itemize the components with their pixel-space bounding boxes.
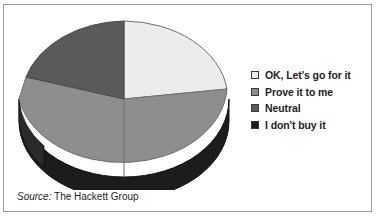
legend-item-prove-it-to-me[interactable]: Prove it to me bbox=[251, 84, 371, 101]
legend-label-neutral: Neutral bbox=[265, 103, 300, 114]
source-attribution: Source: The Hackett Group bbox=[17, 192, 139, 202]
legend-swatch-icon-neutral bbox=[251, 104, 259, 112]
legend-item-ok-lets-go-for-it[interactable]: OK, Let's go for it bbox=[251, 67, 371, 84]
legend-swatch-icon-i-dont-buy-it bbox=[251, 121, 259, 129]
figure-frame: OK, Let's go for it Prove it to me Neutr… bbox=[3, 4, 372, 212]
pie-chart-svg bbox=[4, 5, 249, 190]
source-keyword: Source: bbox=[17, 191, 51, 202]
legend-swatch-icon-ok-lets-go-for-it bbox=[251, 71, 259, 79]
source-organization: The Hackett Group bbox=[54, 191, 138, 202]
pie-slice-ok-lets-go-for-it bbox=[124, 21, 227, 99]
legend-label-prove-it-to-me: Prove it to me bbox=[265, 87, 333, 98]
legend-label-i-dont-buy-it: I don't buy it bbox=[265, 120, 326, 131]
legend-swatch-icon-prove-it-to-me bbox=[251, 88, 259, 96]
legend-item-neutral[interactable]: Neutral bbox=[251, 100, 371, 117]
legend-item-i-dont-buy-it[interactable]: I don't buy it bbox=[251, 117, 371, 134]
legend-label-ok-lets-go-for-it: OK, Let's go for it bbox=[265, 70, 351, 81]
pie-chart-plot-area bbox=[4, 5, 249, 190]
chart-legend: OK, Let's go for it Prove it to me Neutr… bbox=[251, 67, 371, 133]
